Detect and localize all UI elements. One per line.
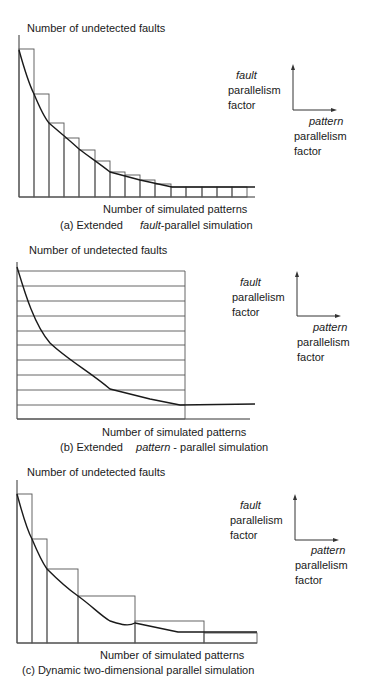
legend-pattern-label: pattern xyxy=(308,115,343,127)
panel-a-y-axis-label: Number of undetected faults xyxy=(27,22,166,34)
legend-pattern-label: pattern xyxy=(310,544,345,556)
bar xyxy=(79,150,95,197)
panel-c-bars xyxy=(17,494,257,643)
panel-a-legend: fault parallelism factor pattern paralle… xyxy=(228,64,347,157)
panel-a-x-axis-label: Number of simulated patterns xyxy=(103,203,248,215)
right-arrowhead-icon xyxy=(333,538,339,542)
panel-b-caption-suffix: - parallel simulation xyxy=(170,441,268,453)
legend-pattern-parallelism: parallelism xyxy=(297,336,350,348)
bar xyxy=(47,569,78,643)
legend-pattern-factor: factor xyxy=(297,351,325,363)
legend-fault-label: fault xyxy=(240,499,262,511)
panel-a: Number of undetected faults Number of si… xyxy=(19,22,347,231)
panel-b-strips xyxy=(17,271,185,419)
legend-fault-label: fault xyxy=(236,69,258,81)
bar xyxy=(202,187,217,197)
legend-fault-factor: factor xyxy=(230,529,258,541)
panel-a-caption: (a) Extended fault-parallel simulation xyxy=(60,219,253,231)
panel-a-caption-suffix: -parallel simulation xyxy=(161,219,253,231)
legend-fault-parallelism: parallelism xyxy=(228,84,281,96)
panel-b-x-axis-label: Number of simulated patterns xyxy=(102,426,247,438)
panel-b-y-axis-label: Number of undetected faults xyxy=(29,244,168,256)
panel-c: Number of undetected faults Number of si… xyxy=(17,466,348,676)
panel-c-x-axis-label: Number of simulated patterns xyxy=(100,649,245,661)
panel-b-caption-italic: pattern xyxy=(135,441,170,453)
bar xyxy=(186,187,202,197)
legend-pattern-factor: factor xyxy=(295,574,323,586)
panel-c-legend: fault parallelism factor pattern paralle… xyxy=(230,494,348,586)
panel-a-caption-prefix: (a) Extended xyxy=(60,219,123,231)
legend-pattern-parallelism: parallelism xyxy=(294,130,347,142)
panel-c-y-axis-label: Number of undetected faults xyxy=(27,466,166,478)
panel-c-fault-curve xyxy=(17,494,257,632)
panel-b-fault-curve xyxy=(17,267,255,405)
panel-b-legend: fault parallelism factor pattern paralle… xyxy=(232,271,350,363)
legend-fault-parallelism: parallelism xyxy=(230,514,283,526)
legend-pattern-factor: factor xyxy=(294,145,322,157)
panel-b-caption-prefix: (b) Extended xyxy=(60,441,123,453)
up-arrowhead-icon xyxy=(293,494,297,500)
panel-c-caption-prefix: (c) Dynamic two-dimensional parallel sim… xyxy=(22,664,254,676)
legend-pattern-label: pattern xyxy=(312,321,347,333)
panel-b: Number of undetected faults Number of si… xyxy=(17,244,350,453)
up-arrowhead-icon xyxy=(291,64,295,70)
panel-a-caption-italic: fault xyxy=(140,219,162,231)
bar xyxy=(171,187,186,197)
legend-fault-parallelism: parallelism xyxy=(232,291,285,303)
right-arrowhead-icon xyxy=(335,314,341,318)
panel-a-bars xyxy=(19,49,247,197)
panel-b-caption: (b) Extended pattern - parallel simulati… xyxy=(60,441,268,453)
legend-fault-factor: factor xyxy=(228,99,256,111)
bar xyxy=(19,49,34,197)
up-arrowhead-icon xyxy=(295,271,299,277)
legend-pattern-parallelism: parallelism xyxy=(295,559,348,571)
bar xyxy=(217,187,232,197)
bar xyxy=(204,633,257,643)
figure-canvas: Number of undetected faults Number of si… xyxy=(0,0,366,678)
bar xyxy=(232,187,247,197)
legend-fault-label: fault xyxy=(240,276,262,288)
right-arrowhead-icon xyxy=(331,108,337,112)
bar xyxy=(17,494,32,643)
panel-c-caption: (c) Dynamic two-dimensional parallel sim… xyxy=(22,664,254,676)
panel-a-fault-curve xyxy=(19,50,255,187)
legend-fault-factor: factor xyxy=(232,306,260,318)
